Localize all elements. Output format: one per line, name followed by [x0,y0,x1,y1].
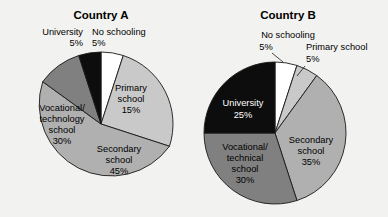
chart-a-primary-value: 15% [122,105,141,115]
chart-a-secondary-name-line2: school [106,155,133,165]
chart-b-primary-name: Primary school [306,42,367,52]
chart-b-vocational-name-line1: Vocational/ [222,142,268,152]
chart-b-vocational-name-line3: school [232,164,259,174]
chart-b-primary-value: 5% [306,54,319,64]
chart-b-vocational-value: 30% [236,175,255,185]
chart-a-primary-name-line2: school [118,94,145,104]
chart-a-university-value: 5% [70,38,83,48]
chart-a-no-schooling-name: No schooling [92,27,146,37]
two-pie-charts-figure: Country A University 5% No schooling 5% [0,0,388,217]
chart-a-primary-name-line1: Primary [115,83,147,93]
chart-b-pie [204,62,346,204]
chart-b-secondary-value: 35% [302,157,321,167]
chart-b-university-value: 25% [234,110,253,120]
chart-b-title: Country B [260,9,316,21]
chart-a-no-schooling-value: 5% [92,38,105,48]
chart-a-secondary-name-line1: Secondary [97,144,142,154]
chart-a-vocational-name-line1: Vocational/ [39,103,85,113]
chart-a-vocational-name-line3: school [49,125,76,135]
chart-a-secondary-value: 45% [110,166,129,176]
chart-b-university-name: University [223,98,264,108]
chart-a-title: Country A [73,9,128,21]
chart-a-vocational-name-line2: technology [40,114,85,124]
chart-b-secondary-name-line1: Secondary [289,135,334,145]
chart-b-vocational-name-line2: technical [227,153,264,163]
chart-a-vocational-value: 30% [53,136,72,146]
chart-b-no-schooling-name: No schooling [261,30,315,40]
chart-a-university-name: University [42,27,83,37]
chart-b-no-schooling-value: 5% [259,42,272,52]
chart-b-secondary-name-line2: school [298,146,325,156]
